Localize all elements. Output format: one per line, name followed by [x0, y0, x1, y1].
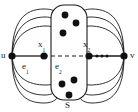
- vertex-s1: [62, 12, 69, 19]
- ellipsis-dot-3: [106, 55, 109, 58]
- ellipsis-dot-1: [96, 55, 99, 58]
- label-x1: x1: [38, 40, 45, 51]
- label-separator-set: S: [65, 101, 70, 110]
- label-v: v: [130, 51, 135, 60]
- label-e2-subscript: 2: [59, 69, 62, 75]
- vertex-x2: [85, 52, 92, 59]
- label-u: u: [1, 51, 6, 60]
- label-x1-subscript: 1: [43, 47, 46, 53]
- graph-figure: u v x1 x2 e1 e2 S: [0, 0, 138, 112]
- ellipsis-dots: [96, 55, 109, 58]
- label-x2-subscript: 2: [88, 47, 91, 53]
- label-e1-subscript: 1: [26, 69, 29, 75]
- label-e1: e1: [22, 62, 29, 73]
- graph-canvas: [0, 0, 138, 112]
- label-x1-base: x: [38, 39, 43, 49]
- vertex-u: [8, 52, 15, 59]
- separator-set-boundary: [51, 5, 87, 100]
- label-x2: x2: [83, 40, 90, 51]
- vertex-s5: [71, 77, 78, 84]
- label-x2-base: x: [83, 39, 88, 49]
- vertex-s4: [59, 81, 66, 88]
- vertex-s6: [66, 92, 73, 99]
- vertex-v: [120, 52, 127, 59]
- ellipsis-dot-2: [101, 55, 104, 58]
- vertex-s2: [73, 20, 80, 27]
- label-e2: e2: [55, 62, 62, 73]
- vertex-x1: [40, 52, 47, 59]
- vertex-s3: [60, 30, 67, 37]
